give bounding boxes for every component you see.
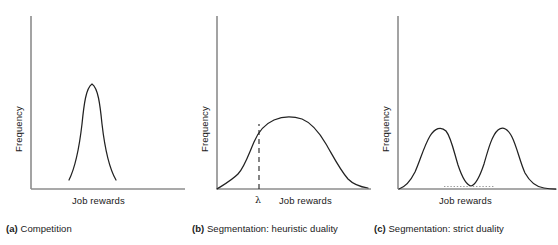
- panel-c: Frequency Job rewards (c) Segmentation: …: [372, 0, 558, 245]
- panel-b-caption-text: Segmentation: heuristic duality: [207, 223, 338, 234]
- panel-c-caption-text: Segmentation: strict duality: [388, 223, 503, 234]
- panel-b-y-axis-label: Frequency: [200, 106, 210, 152]
- panel-a-plot: [0, 0, 186, 212]
- panel-a-x-axis-label: Job rewards: [72, 196, 125, 206]
- panel-b-curve: [217, 117, 368, 189]
- panel-a: Frequency Job rewards (a) Competition: [0, 0, 186, 245]
- panel-c-x-axis-label: Job rewards: [439, 196, 492, 206]
- panel-b-caption: (b) Segmentation: heuristic duality: [192, 224, 338, 234]
- panel-b-x-axis-label: Job rewards: [279, 196, 332, 206]
- panel-a-tag: (a): [6, 223, 18, 234]
- panel-b-plot: [186, 0, 372, 212]
- panel-c-y-axis-label: Frequency: [381, 106, 391, 152]
- panel-b-tag: (b): [192, 223, 204, 234]
- panel-c-caption: (c) Segmentation: strict duality: [374, 224, 504, 234]
- panel-c-plot: [372, 0, 558, 212]
- panel-c-tag: (c): [374, 223, 386, 234]
- panel-a-curve: [69, 84, 116, 180]
- panel-c-curve: [399, 128, 556, 189]
- panel-b-lambda-label: λ: [255, 195, 261, 205]
- figure-three-panel-distributions: Frequency Job rewards (a) Competition Fr…: [0, 0, 558, 245]
- panel-b: Frequency λ Job rewards (b) Segmentation…: [186, 0, 372, 245]
- panel-a-caption: (a) Competition: [6, 224, 72, 234]
- panel-a-caption-text: Competition: [20, 223, 71, 234]
- panel-a-y-axis-label: Frequency: [14, 106, 24, 152]
